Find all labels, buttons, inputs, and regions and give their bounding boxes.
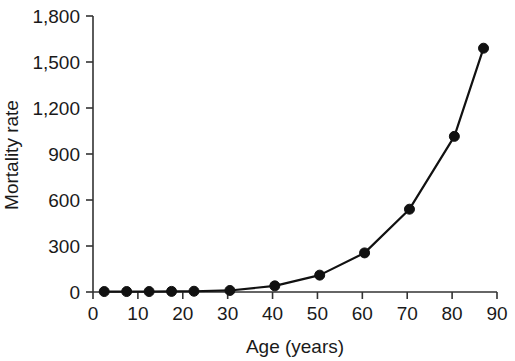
data-point-marker — [270, 281, 280, 291]
y-axis-tick-label: 1,500 — [32, 52, 80, 73]
x-axis-tick-label: 90 — [486, 303, 507, 324]
x-axis-tick-label: 30 — [217, 303, 238, 324]
x-axis-tick-label: 70 — [397, 303, 418, 324]
x-axis-tick-label: 40 — [262, 303, 283, 324]
chart-plot-area: 03006009001,2001,5001,800 01020304050607… — [0, 0, 515, 361]
y-axis-tick-label: 1,800 — [32, 6, 80, 27]
data-point-marker — [479, 43, 489, 53]
data-point-marker — [167, 286, 177, 296]
data-point-marker — [99, 287, 109, 297]
y-axis-tick-label: 900 — [48, 144, 80, 165]
data-point-marker — [122, 287, 132, 297]
data-line — [104, 48, 483, 291]
y-axis-tick-label: 600 — [48, 190, 80, 211]
x-axis-tick-label: 0 — [88, 303, 99, 324]
data-point-marker — [189, 286, 199, 296]
data-point-marker — [315, 270, 325, 280]
y-axis: 03006009001,2001,5001,800 — [32, 6, 93, 303]
y-axis-tick-label: 1,200 — [32, 98, 80, 119]
y-axis-title: Mortality rate — [1, 100, 22, 210]
x-axis-tick-label: 60 — [352, 303, 373, 324]
data-point-marker — [449, 131, 459, 141]
data-point-marker — [225, 285, 235, 295]
x-axis-tick-label: 10 — [127, 303, 148, 324]
data-point-marker — [144, 287, 154, 297]
x-axis-tick-label: 50 — [307, 303, 328, 324]
y-axis-tick-label: 0 — [69, 282, 80, 303]
x-axis-title: Age (years) — [246, 336, 344, 357]
x-axis-tick-label: 20 — [172, 303, 193, 324]
y-axis-tick-label: 300 — [48, 236, 80, 257]
data-series-mortality-rate — [99, 43, 488, 296]
x-axis-tick-label: 80 — [442, 303, 463, 324]
mortality-rate-chart-figure: 03006009001,2001,5001,800 01020304050607… — [0, 0, 515, 361]
data-point-marker — [360, 248, 370, 258]
data-point-marker — [404, 204, 414, 214]
